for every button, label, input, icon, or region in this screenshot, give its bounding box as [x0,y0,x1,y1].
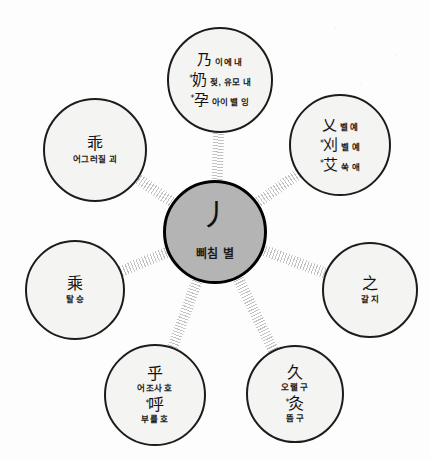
entry-glyph-group: 乃 [197,51,212,69]
entry-reading: 부를 호 [141,415,168,425]
entry-list: 乖어그러질 괴 [73,135,117,164]
node-left[interactable]: 乘탈 승 [25,240,125,340]
entry-list: 乎어조사 호*呼부를 호 [137,365,172,425]
entry-glyph: 乃 [197,51,212,69]
entry-glyph: 乂 [322,116,337,134]
entry-glyph-group: 乖 [87,135,103,153]
entry-glyph-group: 乂 [322,116,337,134]
entry-reading: 어그러질 괴 [73,155,117,165]
asterisk-marker-icon: * [320,139,324,148]
entry-glyph-group: 乎 [147,365,163,383]
entry-reading: 어조사 호 [137,384,172,394]
spoke-to-lower-left [166,277,203,353]
entry-row: *奶젖, 유모 내 [189,71,251,89]
entry-row: *呼부를 호 [141,396,168,425]
asterisk-marker-icon: * [189,74,193,83]
asterisk-marker-icon: * [285,398,289,407]
entry-row: 乂벨 예 [322,116,359,134]
center-glyph: 丿 [200,200,230,230]
entry-reading: 아이 밸 잉 [212,95,250,107]
entry-row: *艾쑥 애 [320,156,360,174]
spoke-to-right [260,244,331,279]
entry-glyph-group: *呼 [145,396,164,414]
node-top[interactable]: 乃이에 내*奶젖, 유모 내*孕아이 밸 잉 [167,27,273,133]
asterisk-marker-icon: * [191,94,195,103]
entry-glyph-group: 久 [287,364,303,382]
entry-row: *灸뜸 구 [285,395,304,424]
entry-row: *孕아이 밸 잉 [191,91,250,109]
entry-glyph: 乘 [67,274,83,293]
entry-reading: 젖, 유모 내 [210,75,251,87]
entry-glyph-group: 乘 [67,275,83,293]
entry-glyph: 灸 [288,394,304,413]
entry-list: 久오랠 구*灸뜸 구 [281,364,308,424]
radial-diagram: 丿삐침 별乃이에 내*奶젖, 유모 내*孕아이 밸 잉乂벨 예*刈벨 예*艾쑥 … [0,0,430,460]
entry-glyph: 乖 [87,134,103,153]
entry-reading: 탈 승 [66,295,85,305]
entry-reading: 오랠 구 [281,383,308,393]
entry-row: 乖어그러질 괴 [73,135,117,164]
entry-row: 乘탈 승 [66,275,85,304]
entry-row: *刈벨 예 [320,136,360,154]
node-right[interactable]: 之갈 지 [322,242,418,338]
entry-glyph: 呼 [148,395,164,414]
entry-glyph: 乎 [147,364,163,383]
node-lower-right[interactable]: 久오랠 구*灸뜸 구 [246,345,344,443]
entry-glyph-group: 之 [362,275,378,293]
entry-row: 乃이에 내 [197,51,242,69]
entry-row: 之갈 지 [361,275,380,304]
entry-glyph-group: *孕 [191,91,209,109]
entry-glyph: 久 [287,363,303,382]
entry-glyph-group: *刈 [320,136,338,154]
entry-list: 乃이에 내*奶젖, 유모 내*孕아이 밸 잉 [189,51,251,109]
entry-glyph: 孕 [194,91,209,109]
asterisk-marker-icon: * [320,159,324,168]
entry-glyph: 刈 [323,136,338,154]
entry-glyph-group: *灸 [285,395,304,413]
entry-reading: 벨 예 [341,140,360,152]
node-lower-left[interactable]: 乎어조사 호*呼부를 호 [104,344,206,446]
node-upper-left[interactable]: 乖어그러질 괴 [43,98,147,202]
entry-list: 乘탈 승 [66,275,85,304]
spoke-to-lower-right [232,274,280,356]
entry-reading: 벨 예 [340,120,359,132]
asterisk-marker-icon: * [145,399,149,408]
entry-reading: 이에 내 [215,55,242,67]
entry-glyph-group: *艾 [320,156,338,174]
center-reading: 삐침 별 [196,244,234,261]
entry-reading: 뜸 구 [286,414,305,424]
center-node[interactable]: 丿삐침 별 [163,180,267,284]
entry-reading: 갈 지 [361,295,380,305]
spoke-to-top [211,129,224,182]
entry-glyph: 艾 [323,156,338,174]
entry-reading: 쑥 애 [341,160,360,172]
entry-row: 乎어조사 호 [137,365,172,394]
node-upper-right[interactable]: 乂벨 예*刈벨 예*艾쑥 애 [289,94,391,196]
spoke-to-left [115,246,171,277]
entry-glyph: 之 [362,274,378,293]
entry-glyph: 奶 [192,71,207,89]
entry-list: 乂벨 예*刈벨 예*艾쑥 애 [320,116,360,174]
entry-list: 之갈 지 [361,275,380,304]
entry-glyph-group: *奶 [189,71,207,89]
entry-row: 久오랠 구 [281,364,308,393]
